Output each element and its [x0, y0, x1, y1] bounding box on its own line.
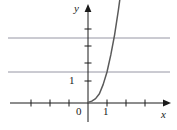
exponential-graph-figure: y x 0 1 1 [0, 0, 177, 130]
origin-tick-label: 0 [76, 106, 82, 117]
x-tick-label-one: 1 [103, 106, 109, 117]
y-axis-label: y [74, 3, 79, 14]
x-axis-arrowhead [163, 100, 171, 107]
x-axis [10, 100, 171, 107]
y-tick-label-one: 1 [69, 75, 75, 86]
y-axis [85, 4, 92, 122]
y-axis-arrowhead [85, 4, 92, 12]
plot-canvas [0, 0, 177, 130]
x-axis-label: x [161, 109, 166, 120]
gridlines-horizontal [8, 38, 170, 72]
exponential-curve [88, 0, 128, 102]
